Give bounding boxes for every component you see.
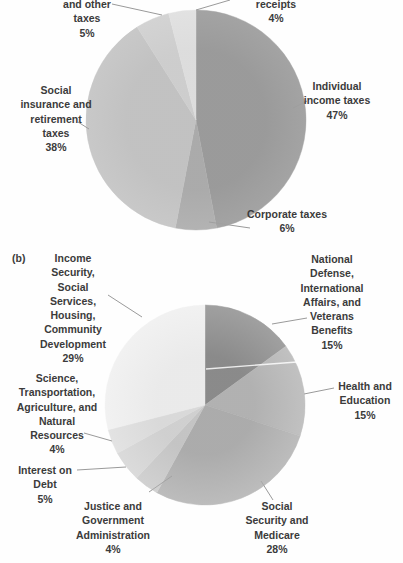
- pie-a-leader-line-3: [112, 4, 162, 15]
- slice-label-line: Veterans: [300, 309, 363, 323]
- pie-b-label-income-security-social-services-housing-community-development: IncomeSecurity,SocialServices,Housing,Co…: [40, 251, 106, 365]
- slice-label-line: Medicare: [245, 528, 308, 542]
- slice-label-line: and other: [63, 0, 111, 11]
- pie-a-label-social-insurance-and-retirement-taxes: Socialinsurance andretirementtaxes38%: [20, 83, 91, 154]
- pie-b-leader-line-6: [108, 295, 142, 317]
- slice-label-line: Social: [245, 499, 308, 513]
- slice-label-line: Housing,: [40, 308, 106, 322]
- slice-pct-label: 38%: [20, 140, 91, 154]
- slice-pct-label: 6%: [247, 221, 327, 235]
- pie-a-label-receipts: receipts4%: [256, 0, 296, 26]
- pie-b-label-justice-and-government-administration: Justice andGovernmentAdministration4%: [76, 499, 150, 556]
- figure-canvas: (b) Individualincome taxes47%Corporate t…: [0, 0, 403, 563]
- slice-label-line: Services,: [40, 294, 106, 308]
- slice-label-line: retirement: [20, 112, 91, 126]
- slice-label-line: Government: [76, 513, 150, 527]
- slice-label-line: taxes: [63, 11, 111, 25]
- slice-label-line: Social: [20, 83, 91, 97]
- slice-pct-label: 29%: [40, 351, 106, 365]
- slice-pct-label: 28%: [245, 542, 308, 556]
- slice-pct-label: 47%: [304, 108, 371, 122]
- slice-label-line: Social: [40, 280, 106, 294]
- slice-label-line: Benefits: [300, 323, 363, 337]
- slice-label-line: Security and: [245, 513, 308, 527]
- pie-b-leader-line-1: [304, 388, 334, 394]
- slice-label-line: Natural: [17, 414, 98, 428]
- pie-a-leader-line-4: [196, 0, 230, 10]
- slice-label-line: Health and: [338, 379, 392, 393]
- slice-label-line: Administration: [76, 528, 150, 542]
- pie-b-label-national-defense-international-affairs-and-veterans-benefits: NationalDefense,InternationalAffairs, an…: [300, 252, 363, 352]
- slice-label-line: receipts: [256, 0, 296, 11]
- slice-label-line: Interest on: [18, 463, 72, 477]
- slice-label-line: Defense,: [300, 266, 363, 280]
- slice-label-line: Resources: [17, 428, 98, 442]
- pie-a-label-corporate-taxes: Corporate taxes6%: [247, 207, 327, 236]
- pie-b-label-interest-on-debt: Interest onDebt5%: [18, 463, 72, 506]
- slice-pct-label: 5%: [18, 492, 72, 506]
- slice-label-line: Individual: [304, 79, 371, 93]
- slice-label-line: Debt: [18, 477, 72, 491]
- slice-label-line: Justice and: [76, 499, 150, 513]
- panel-b-label: (b): [12, 252, 25, 264]
- slice-label-line: Development: [40, 337, 106, 351]
- slice-label-line: Security,: [40, 265, 106, 279]
- slice-label-line: Corporate taxes: [247, 207, 327, 221]
- slice-pct-label: 4%: [256, 11, 296, 25]
- pie-a-label-and-other-taxes: and othertaxes5%: [63, 0, 111, 40]
- pie-a-label-individual-income-taxes: Individualincome taxes47%: [304, 79, 371, 122]
- pie-b-label-health-and-education: Health andEducation15%: [338, 379, 392, 422]
- pie-a-slice-individual-income-taxes: [196, 10, 306, 228]
- slice-label-line: Affairs, and: [300, 295, 363, 309]
- slice-label-line: National: [300, 252, 363, 266]
- slice-pct-label: 15%: [338, 408, 392, 422]
- pie-b-label-science-transportation-agriculture-and-natural-resources: Science,Transportation,Agriculture, andN…: [17, 371, 98, 457]
- slice-label-line: Transportation,: [17, 385, 98, 399]
- pie-b-leader-line-4: [77, 467, 126, 470]
- slice-label-line: Agriculture, and: [17, 400, 98, 414]
- slice-label-line: Income: [40, 251, 106, 265]
- slice-label-line: Science,: [17, 371, 98, 385]
- slice-label-line: International: [300, 281, 363, 295]
- slice-label-line: Community: [40, 322, 106, 336]
- slice-pct-label: 4%: [17, 442, 98, 456]
- slice-label-line: taxes: [20, 126, 91, 140]
- slice-label-line: Education: [338, 393, 392, 407]
- slice-label-line: insurance and: [20, 97, 91, 111]
- pie-b-label-social-security-and-medicare: SocialSecurity andMedicare28%: [245, 499, 308, 556]
- pie-b-leader-line-2: [261, 481, 273, 500]
- slice-pct-label: 5%: [63, 26, 111, 40]
- slice-label-line: income taxes: [304, 93, 371, 107]
- slice-pct-label: 4%: [76, 542, 150, 556]
- slice-pct-label: 15%: [300, 338, 363, 352]
